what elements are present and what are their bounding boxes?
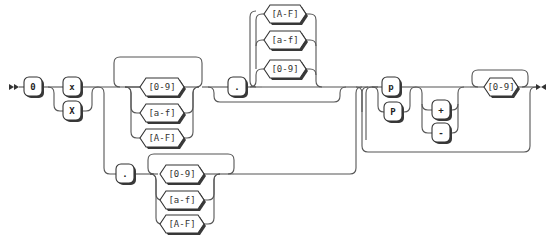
start-marker-icon [9, 84, 19, 90]
svg-text:[a-f]: [a-f] [148, 108, 175, 118]
svg-text:+: + [438, 105, 444, 115]
svg-text:[A-F]: [A-F] [168, 219, 195, 229]
class-lower-a-f: [a-f] [160, 191, 206, 211]
class-int-a-f: [a-f] [140, 104, 186, 124]
class-frac-0-9: [0-9] [264, 60, 308, 80]
svg-text:[0-9]: [0-9] [148, 82, 175, 92]
svg-text:-: - [438, 128, 443, 138]
terminal-minus: - [432, 123, 452, 144]
class-exp-0-9: [0-9] [484, 78, 520, 98]
class-frac-A-F: [A-F] [264, 5, 308, 25]
terminal-x-upper: X [63, 101, 83, 122]
svg-text:p: p [388, 82, 394, 92]
terminal-p-lower: p [382, 77, 402, 98]
svg-text:[a-f]: [a-f] [168, 195, 195, 205]
class-lower-A-F: [A-F] [160, 215, 206, 235]
class-lower-0-9: [0-9] [160, 165, 206, 185]
class-int-0-9: [0-9] [140, 78, 186, 98]
terminal-zero: 0 [24, 77, 44, 98]
terminal-p-upper: P [384, 102, 404, 123]
svg-text:0: 0 [30, 82, 35, 92]
svg-text:[0-9]: [0-9] [271, 64, 298, 74]
terminal-plus: + [432, 100, 452, 121]
svg-text:.: . [122, 169, 127, 179]
svg-text:[A-F]: [A-F] [271, 9, 298, 19]
terminal-x-lower: x [63, 77, 83, 98]
terminal-dot-fraction: . [228, 77, 248, 98]
svg-text:[A-F]: [A-F] [148, 133, 175, 143]
svg-text:[a-f]: [a-f] [271, 35, 298, 45]
svg-text:P: P [390, 107, 396, 117]
class-int-A-F: [A-F] [140, 129, 186, 149]
end-marker-icon [536, 84, 546, 90]
svg-text:x: x [69, 82, 75, 92]
class-frac-a-f: [a-f] [264, 31, 308, 51]
svg-text:.: . [234, 82, 239, 92]
svg-text:X: X [69, 106, 75, 116]
terminal-dot-leading: . [116, 164, 136, 185]
svg-text:[0-9]: [0-9] [168, 169, 195, 179]
railroad-diagram: 0 x X . . p P + - [0, 0, 552, 244]
svg-text:[0-9]: [0-9] [487, 82, 514, 92]
